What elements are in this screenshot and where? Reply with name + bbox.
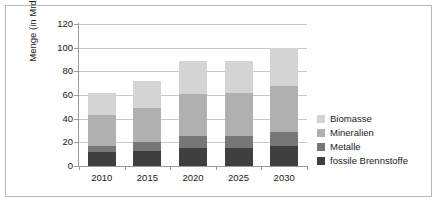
x-tick-label-2015: 2015 xyxy=(137,172,158,183)
bar-segment-2025-metalle xyxy=(225,136,253,148)
legend-swatch-icon xyxy=(317,129,325,137)
bar-segment-2030-mineralien xyxy=(270,86,298,132)
bar-segment-2015-metalle xyxy=(133,142,161,150)
stacked-bar-2025 xyxy=(225,61,253,166)
x-tick-label-2030: 2030 xyxy=(274,172,295,183)
x-tick-mark-0 xyxy=(79,166,80,170)
legend-swatch-icon xyxy=(317,115,325,123)
bar-group-2025 xyxy=(225,24,253,166)
y-tick-label-60: 60 xyxy=(13,90,73,100)
plot-area: 020406080100120 xyxy=(79,24,307,166)
x-tick-mark-2 xyxy=(170,166,171,170)
x-tick-label-2025: 2025 xyxy=(228,172,249,183)
legend-swatch-icon xyxy=(317,143,325,151)
x-tick-label-2020: 2020 xyxy=(182,172,203,183)
stacked-bar-2015 xyxy=(133,81,161,166)
bar-group-2015 xyxy=(133,24,161,166)
x-tick-mark-end xyxy=(307,166,308,170)
bar-segment-2030-metalle xyxy=(270,132,298,146)
bar-group-2020 xyxy=(179,24,207,166)
bar-segment-2015-biomasse xyxy=(133,81,161,108)
bar-segment-2010-fossile-brennstoffe xyxy=(88,152,116,166)
bar-segment-2020-biomasse xyxy=(179,61,207,94)
x-tick-mark-1 xyxy=(125,166,126,170)
y-tick-label-40: 40 xyxy=(13,114,73,124)
bar-segment-2010-biomasse xyxy=(88,93,116,115)
legend-item-biomasse[interactable]: Biomasse xyxy=(317,112,408,125)
stacked-bar-2020 xyxy=(179,61,207,166)
legend-item-metalle[interactable]: Metalle xyxy=(317,140,408,153)
bar-segment-2015-mineralien xyxy=(133,108,161,142)
stacked-bar-2030 xyxy=(270,48,298,166)
y-tick-label-120: 120 xyxy=(13,19,73,29)
legend-item-mineralien[interactable]: Mineralien xyxy=(317,126,408,139)
legend-item-fossile-brennstoffe[interactable]: fossile Brennstoffe xyxy=(317,154,408,167)
bar-segment-2025-mineralien xyxy=(225,93,253,137)
bar-segment-2020-fossile-brennstoffe xyxy=(179,148,207,166)
bar-group-2010 xyxy=(88,24,116,166)
stacked-bar-2010 xyxy=(88,93,116,166)
y-tick-label-0: 0 xyxy=(13,161,73,171)
bar-segment-2020-metalle xyxy=(179,136,207,148)
x-tick-mark-4 xyxy=(261,166,262,170)
chart-legend: BiomasseMineralienMetallefossile Brennst… xyxy=(317,112,408,168)
bar-segment-2030-biomasse xyxy=(270,48,298,86)
x-tick-mark-3 xyxy=(216,166,217,170)
legend-swatch-icon xyxy=(317,157,325,165)
chart-frame: Menge (in Mrd. t) 020406080100120 201020… xyxy=(5,5,432,197)
chart-screenshot: Menge (in Mrd. t) 020406080100120 201020… xyxy=(0,0,439,204)
y-tick-label-100: 100 xyxy=(13,43,73,53)
y-tick-label-20: 20 xyxy=(13,138,73,148)
gridline-0 xyxy=(79,166,307,167)
y-tick-label-80: 80 xyxy=(13,67,73,77)
bar-series-container xyxy=(79,24,307,166)
bar-group-2030 xyxy=(270,24,298,166)
bar-segment-2020-mineralien xyxy=(179,94,207,137)
legend-label: Mineralien xyxy=(330,128,374,138)
legend-label: Biomasse xyxy=(330,114,372,124)
legend-label: Metalle xyxy=(330,142,361,152)
bar-segment-2025-biomasse xyxy=(225,61,253,93)
bar-segment-2010-mineralien xyxy=(88,115,116,146)
bar-segment-2010-metalle xyxy=(88,146,116,152)
bar-segment-2015-fossile-brennstoffe xyxy=(133,151,161,166)
legend-label: fossile Brennstoffe xyxy=(330,156,408,166)
x-tick-label-2010: 2010 xyxy=(91,172,112,183)
bar-segment-2025-fossile-brennstoffe xyxy=(225,148,253,166)
bar-segment-2030-fossile-brennstoffe xyxy=(270,146,298,166)
